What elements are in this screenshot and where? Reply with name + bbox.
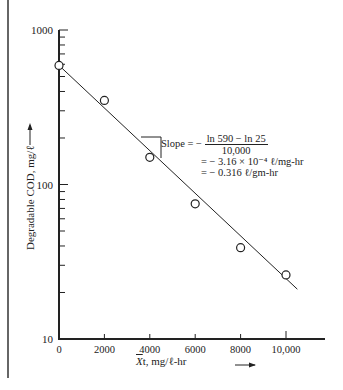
data-point <box>191 200 199 208</box>
svg-text:0: 0 <box>56 344 61 355</box>
x-ticks <box>104 331 286 339</box>
slope-annotation: Slope = − ln 590 − ln 25 10,000 = − 3.16… <box>161 133 304 178</box>
slope-prefix: Slope = − <box>161 138 202 149</box>
x-arrowhead-icon <box>249 363 256 368</box>
svg-text:10: 10 <box>42 333 54 345</box>
slope-numerator: ln 590 − ln 25 <box>205 133 268 145</box>
svg-text:6000: 6000 <box>185 344 206 355</box>
data-point <box>100 96 108 104</box>
slope-fraction: ln 590 − ln 25 10,000 <box>205 133 268 156</box>
slope-line-3: = − 0.316 ℓ/gm-hr <box>161 167 304 178</box>
data-point <box>55 61 63 69</box>
y-axis-label: Degradable COD, mg/ℓ <box>24 145 36 250</box>
svg-text:4000: 4000 <box>139 344 160 355</box>
y-ticks <box>59 30 68 339</box>
svg-text:1000: 1000 <box>31 24 54 36</box>
data-point <box>282 271 290 279</box>
slope-line-2: = − 3.16 × 10⁻⁴ ℓ/mg-hr <box>161 156 304 167</box>
slope-denominator: 10,000 <box>205 145 268 156</box>
svg-text:100: 100 <box>37 179 54 191</box>
svg-text:10,000: 10,000 <box>272 344 301 355</box>
chart-plot: 100010010 0200040006000800010,000 <box>0 0 343 390</box>
data-point <box>237 244 245 252</box>
data-point <box>146 153 154 161</box>
x-tick-labels: 0200040006000800010,000 <box>56 344 300 355</box>
svg-text:8000: 8000 <box>230 344 251 355</box>
svg-text:2000: 2000 <box>94 344 115 355</box>
y-arrowhead-icon <box>28 123 33 130</box>
x-axis-label: Xt, mg/ℓ-hr <box>136 355 187 367</box>
